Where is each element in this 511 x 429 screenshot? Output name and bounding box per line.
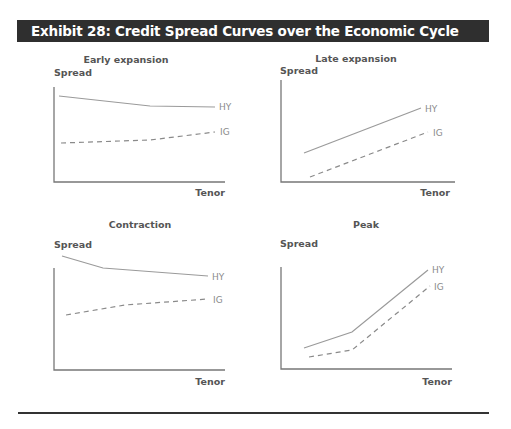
panel-late-expansion: Late expansion Spread HY IG Tenor [280, 53, 455, 198]
ig-line [61, 132, 215, 143]
panel-title: Early expansion [83, 54, 168, 65]
x-axis-label: Tenor [422, 376, 452, 387]
hy-label: HY [425, 104, 438, 114]
axes [281, 267, 452, 369]
hy-line [304, 108, 421, 153]
panel-early-expansion: Early expansion Spread HY IG Tenor [54, 54, 232, 198]
panel-title: Late expansion [315, 53, 397, 64]
bottom-rule [18, 412, 489, 414]
x-axis-label: Tenor [195, 376, 225, 387]
axes [54, 268, 225, 370]
hy-line [304, 270, 428, 348]
ig-label: IG [213, 295, 223, 305]
panel-title: Contraction [109, 219, 172, 230]
y-axis-label: Spread [54, 67, 92, 78]
x-axis-label: Tenor [420, 187, 450, 198]
ig-label: IG [220, 127, 230, 137]
ig-line [309, 286, 430, 357]
y-axis-label: Spread [280, 238, 318, 249]
y-axis-label: Spread [54, 239, 92, 250]
panel-contraction: Contraction Spread HY IG Tenor [54, 219, 225, 387]
charts-canvas: Early expansion Spread HY IG Tenor Late … [0, 0, 511, 429]
hy-line [59, 96, 215, 107]
ig-label: IG [434, 282, 444, 292]
ig-line [66, 299, 208, 315]
ig-line [310, 132, 428, 177]
panel-title: Peak [353, 219, 380, 230]
hy-label: HY [212, 272, 225, 282]
hy-label: HY [432, 265, 445, 275]
axes [281, 80, 455, 182]
y-axis-label: Spread [280, 65, 318, 76]
panel-peak: Peak Spread HY IG Tenor [280, 219, 452, 387]
hy-label: HY [219, 102, 232, 112]
hy-line [62, 256, 208, 276]
ig-label: IG [433, 128, 443, 138]
x-axis-label: Tenor [195, 187, 225, 198]
